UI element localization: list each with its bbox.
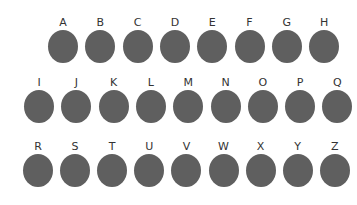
oval-button[interactable] xyxy=(248,90,278,123)
letter-item-m[interactable]: M xyxy=(173,77,203,123)
letter-item-w[interactable]: W xyxy=(209,141,239,187)
letter-label: D xyxy=(160,17,190,29)
oval-button[interactable] xyxy=(246,154,276,187)
letter-label: S xyxy=(60,141,90,153)
letter-item-r[interactable]: R xyxy=(23,141,53,187)
letter-label: R xyxy=(23,141,53,153)
letter-item-g[interactable]: G xyxy=(272,17,302,63)
oval-button[interactable] xyxy=(23,154,53,187)
letter-label: C xyxy=(123,17,153,29)
oval-button[interactable] xyxy=(173,90,203,123)
oval-button[interactable] xyxy=(123,30,153,63)
oval-button[interactable] xyxy=(211,90,241,123)
letter-label: W xyxy=(209,141,239,153)
letter-item-i[interactable]: I xyxy=(24,77,54,123)
oval-button[interactable] xyxy=(235,30,265,63)
letter-item-a[interactable]: A xyxy=(48,17,78,63)
letter-item-p[interactable]: P xyxy=(285,77,315,123)
oval-button[interactable] xyxy=(209,154,239,187)
oval-button[interactable] xyxy=(48,30,78,63)
letter-item-d[interactable]: D xyxy=(160,17,190,63)
oval-button[interactable] xyxy=(283,154,313,187)
letter-label: X xyxy=(246,141,276,153)
oval-button[interactable] xyxy=(309,30,339,63)
letter-item-x[interactable]: X xyxy=(246,141,276,187)
letter-item-v[interactable]: V xyxy=(171,141,201,187)
letter-item-l[interactable]: L xyxy=(136,77,166,123)
oval-button[interactable] xyxy=(160,30,190,63)
letter-label: I xyxy=(24,77,54,89)
letter-item-u[interactable]: U xyxy=(134,141,164,187)
letter-label: O xyxy=(248,77,278,89)
oval-button[interactable] xyxy=(285,90,315,123)
letter-item-y[interactable]: Y xyxy=(283,141,313,187)
letter-label: B xyxy=(85,17,115,29)
oval-button[interactable] xyxy=(272,30,302,63)
oval-button[interactable] xyxy=(97,154,127,187)
letter-label: A xyxy=(48,17,78,29)
oval-button[interactable] xyxy=(320,154,350,187)
oval-button[interactable] xyxy=(197,30,227,63)
letter-label: U xyxy=(134,141,164,153)
oval-button[interactable] xyxy=(171,154,201,187)
letter-label: Y xyxy=(283,141,313,153)
oval-button[interactable] xyxy=(60,154,90,187)
letter-item-f[interactable]: F xyxy=(235,17,265,63)
oval-button[interactable] xyxy=(134,154,164,187)
letter-item-z[interactable]: Z xyxy=(320,141,350,187)
oval-button[interactable] xyxy=(61,90,91,123)
letter-label: V xyxy=(171,141,201,153)
letter-item-t[interactable]: T xyxy=(97,141,127,187)
letter-item-s[interactable]: S xyxy=(60,141,90,187)
letter-item-o[interactable]: O xyxy=(248,77,278,123)
letter-item-c[interactable]: C xyxy=(123,17,153,63)
oval-button[interactable] xyxy=(322,90,352,123)
letter-label: N xyxy=(211,77,241,89)
letter-label: T xyxy=(97,141,127,153)
oval-button[interactable] xyxy=(136,90,166,123)
letter-label: P xyxy=(285,77,315,89)
letter-item-n[interactable]: N xyxy=(211,77,241,123)
letter-label: E xyxy=(197,17,227,29)
letter-label: Z xyxy=(320,141,350,153)
letter-item-e[interactable]: E xyxy=(197,17,227,63)
oval-button[interactable] xyxy=(24,90,54,123)
oval-button[interactable] xyxy=(85,30,115,63)
letter-label: L xyxy=(136,77,166,89)
letter-label: H xyxy=(309,17,339,29)
oval-button[interactable] xyxy=(99,90,129,123)
letter-label: G xyxy=(272,17,302,29)
letter-label: J xyxy=(61,77,91,89)
letter-item-q[interactable]: Q xyxy=(322,77,352,123)
letter-item-h[interactable]: H xyxy=(309,17,339,63)
letter-item-j[interactable]: J xyxy=(61,77,91,123)
letter-label: Q xyxy=(322,77,352,89)
letter-item-b[interactable]: B xyxy=(85,17,115,63)
letter-label: K xyxy=(99,77,129,89)
letter-label: M xyxy=(173,77,203,89)
letter-item-k[interactable]: K xyxy=(99,77,129,123)
letter-label: F xyxy=(235,17,265,29)
